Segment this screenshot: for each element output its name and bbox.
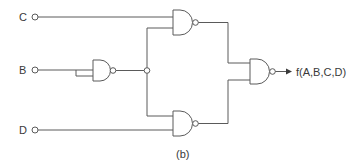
output-label: f(A,B,C,D) bbox=[296, 66, 346, 78]
input-terminal-c-icon bbox=[32, 14, 38, 20]
wire-junction-to-nand2 bbox=[147, 28, 173, 68]
input-label-c: C bbox=[19, 11, 27, 23]
nand-gate-3-icon bbox=[173, 111, 198, 136]
nand-gate-2-icon bbox=[173, 10, 198, 35]
logic-circuit-diagram: C B D f(A,B,C,D) (b) bbox=[0, 0, 361, 165]
input-terminal-b-icon bbox=[32, 67, 38, 73]
input-label-d: D bbox=[19, 124, 27, 136]
junction-node-icon bbox=[144, 68, 150, 74]
input-label-b: B bbox=[19, 64, 26, 76]
wire-junction-to-nand3 bbox=[147, 73, 173, 116]
wire-nand3-out bbox=[198, 80, 250, 124]
wire-b bbox=[38, 70, 93, 76]
figure-caption: (b) bbox=[176, 148, 189, 160]
input-terminal-d-icon bbox=[32, 127, 38, 133]
nand-gate-1-icon bbox=[93, 60, 116, 81]
nand-gate-4-icon bbox=[250, 59, 275, 84]
output-arrow-icon bbox=[286, 69, 292, 75]
wire-nand2-out bbox=[198, 23, 250, 64]
